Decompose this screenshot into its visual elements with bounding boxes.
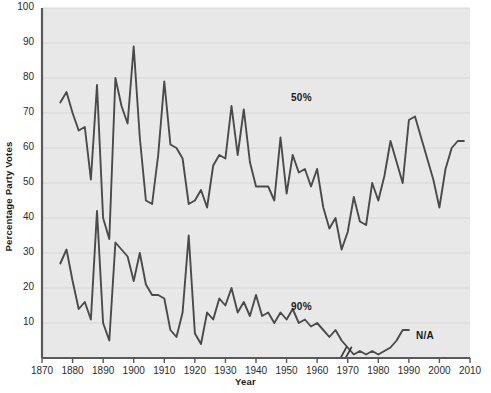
x-tick-label: 2010 <box>450 365 490 376</box>
y-tick-label: 80 <box>6 71 34 82</box>
y-tick-label: 70 <box>6 106 34 117</box>
series-label-90: 90% <box>291 301 312 312</box>
series-label-na: N/A <box>416 330 434 341</box>
series-label-50: 50% <box>291 92 312 103</box>
y-tick-label: 100 <box>6 1 34 12</box>
y-tick-label: 30 <box>6 246 34 257</box>
y-tick-label: 60 <box>6 141 34 152</box>
y-tick-label: 20 <box>6 281 34 292</box>
y-tick-label: 40 <box>6 211 34 222</box>
chart-container: Percentage Party Votes Year 102030405060… <box>0 0 491 393</box>
y-tick-label: 10 <box>6 316 34 327</box>
y-tick-label: 50 <box>6 176 34 187</box>
y-tick-label: 90 <box>6 36 34 47</box>
